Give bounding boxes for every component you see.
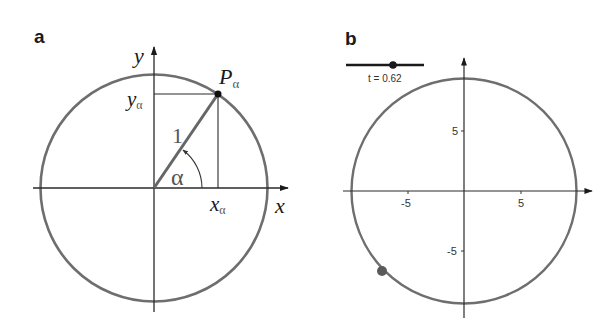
angle-arc — [183, 150, 202, 188]
radius-line — [154, 94, 218, 188]
x-axis-label: x — [274, 193, 285, 218]
point-p-label: Pα — [218, 64, 239, 91]
slider-knob[interactable] — [389, 61, 397, 69]
y-tick-label-neg5: -5 — [447, 245, 457, 257]
y-axis-label: y — [132, 43, 144, 68]
unit-circle-figure: a y x Pα yα xα 1 α b t = 0.62 — [0, 0, 613, 330]
panel-label-b: b — [345, 28, 357, 49]
radius-label: 1 — [172, 123, 183, 148]
point-p — [215, 91, 222, 98]
t-slider[interactable]: t = 0.62 — [346, 61, 424, 84]
y-alpha-label: yα — [125, 87, 143, 112]
slider-value-label: t = 0.62 — [368, 73, 402, 84]
x-tick-label-5: 5 — [518, 197, 524, 209]
moving-point[interactable] — [377, 266, 387, 276]
angle-label: α — [171, 164, 184, 190]
x-alpha-label: xα — [209, 192, 226, 217]
x-tick-label-neg5: -5 — [401, 197, 411, 209]
panel-b: b t = 0.62 -5 5 5 -5 — [343, 28, 592, 318]
panel-label-a: a — [34, 26, 45, 47]
y-tick-label-5: 5 — [452, 125, 458, 137]
panel-a: a y x Pα yα xα 1 α — [33, 26, 288, 312]
